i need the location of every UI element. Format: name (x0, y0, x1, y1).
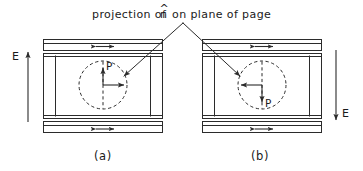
panel-a-caption: (a) (94, 149, 112, 163)
panel-a-bottom-slab (44, 122, 163, 133)
panel-b-top-slab-outer (203, 40, 322, 51)
panel-a-p-label: P (106, 60, 112, 72)
panel-a-field-group: E (12, 50, 28, 122)
panel-b-top-slab (203, 40, 322, 51)
panel-b-caption: (b) (251, 149, 269, 163)
diagram-canvas: projection of n ^ on plane of page (0, 0, 363, 171)
panel-b: P E (b) (203, 40, 350, 164)
title-hat-icon: ^ (160, 2, 170, 15)
panel-b-vector-group: P (238, 61, 286, 109)
leader-line-to-panel-a (124, 23, 183, 76)
panel-a-top-slab (44, 40, 163, 51)
panel-a-bottom-slab-outer (44, 122, 163, 133)
leader-lines (124, 23, 240, 76)
panel-b-field-group: E (336, 50, 349, 120)
leader-line-to-panel-b (183, 23, 240, 76)
figure-container: projection of n ^ on plane of page (0, 0, 363, 171)
title-group: projection of n ^ on plane of page (92, 2, 271, 22)
panel-b-p-label: P (265, 97, 271, 109)
panel-a-field-label: E (12, 50, 19, 63)
title-part-1: projection of (92, 8, 167, 21)
panel-b-bottom-slab (203, 122, 322, 133)
panel-a-top-slab-outer (44, 40, 163, 51)
panel-b-bottom-slab-outer (203, 122, 322, 133)
panel-b-field-label: E (342, 107, 349, 120)
panel-a-vector-group: P (79, 60, 127, 109)
title-part-2: on plane of page (172, 8, 271, 21)
panel-a: P E (a) (12, 40, 163, 164)
